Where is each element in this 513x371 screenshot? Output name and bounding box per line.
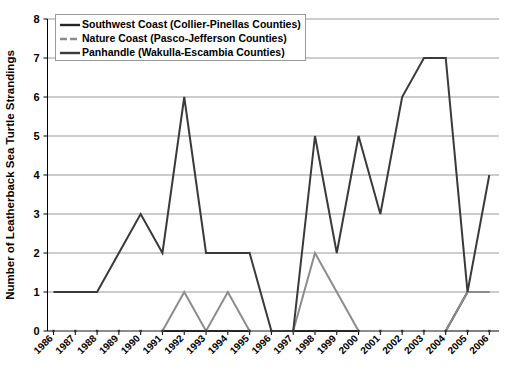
gridlines: [44, 19, 500, 331]
x-tick-label: 1993: [184, 332, 208, 356]
baseline-marker: [292, 330, 294, 332]
baseline-marker: [488, 330, 490, 332]
x-tick-label: 1997: [271, 332, 295, 356]
y-tick-label: 1: [33, 286, 39, 298]
y-tick-label: 8: [33, 13, 39, 25]
series-line-0: [54, 292, 490, 331]
y-tick-label: 5: [33, 130, 39, 142]
baseline-marker: [52, 330, 54, 332]
x-tick-label: 1998: [293, 332, 317, 356]
baseline-marker: [423, 330, 425, 332]
x-tick-label: 1989: [97, 332, 121, 356]
legend-label-1: Nature Coast (Pasco-Jefferson Counties): [82, 32, 287, 44]
baseline-marker: [183, 330, 185, 332]
baseline-marker: [205, 330, 207, 332]
x-tick-label: 1991: [140, 332, 164, 356]
y-tick-label: 4: [33, 169, 40, 181]
x-tick-label: 2002: [380, 332, 404, 356]
y-axis-tick-labels: 012345678: [33, 13, 40, 337]
y-axis-title: Number of Leatherback Sea Turtle Strandi…: [4, 50, 16, 300]
baseline-marker: [96, 330, 98, 332]
x-tick-label: 1988: [75, 332, 99, 356]
baseline-marker: [401, 330, 403, 332]
baseline-marker: [270, 330, 272, 332]
x-tick-label: 2006: [467, 332, 491, 356]
data-series-group: [52, 58, 490, 332]
baseline-marker: [445, 330, 447, 332]
series-line-2: [54, 58, 490, 331]
x-tick-label: 2000: [336, 332, 360, 356]
x-tick-label: 1992: [162, 332, 186, 356]
baseline-marker: [248, 330, 250, 332]
legend-label-0: Southwest Coast (Collier-Pinellas Counti…: [82, 18, 301, 30]
baseline-marker: [227, 330, 229, 332]
legend-label-2: Panhandle (Wakulla-Escambia Counties): [82, 46, 285, 58]
chart-legend: Southwest Coast (Collier-Pinellas Counti…: [56, 15, 306, 61]
baseline-marker: [161, 330, 163, 332]
x-tick-label: 1996: [249, 332, 273, 356]
chart-container: 012345678 198619871988198919901991199219…: [0, 0, 513, 371]
x-tick-label: 2003: [402, 332, 426, 356]
y-tick-label: 0: [33, 325, 39, 337]
y-tick-label: 6: [33, 91, 39, 103]
y-tick-label: 3: [33, 208, 39, 220]
x-tick-label: 2001: [358, 332, 382, 356]
baseline-marker: [74, 330, 76, 332]
baseline-marker: [139, 330, 141, 332]
x-axis-tick-labels: 1986198719881989199019911992199319941995…: [31, 332, 491, 356]
x-tick-label: 2005: [445, 332, 469, 356]
x-tick-label: 1987: [53, 332, 77, 356]
x-tick-label: 1995: [228, 332, 252, 356]
baseline-marker: [466, 330, 468, 332]
x-tick-label: 1994: [206, 332, 230, 356]
y-tick-label: 2: [33, 247, 39, 259]
x-tick-label: 1999: [315, 332, 339, 356]
y-tick-label: 7: [33, 52, 39, 64]
x-tick-label: 2004: [424, 332, 448, 356]
line-chart: 012345678 198619871988198919901991199219…: [0, 0, 513, 371]
baseline-marker: [336, 330, 338, 332]
baseline-marker: [357, 330, 359, 332]
baseline-marker: [314, 330, 316, 332]
baseline-marker: [118, 330, 120, 332]
x-tick-label: 1990: [119, 332, 143, 356]
baseline-marker: [379, 330, 381, 332]
